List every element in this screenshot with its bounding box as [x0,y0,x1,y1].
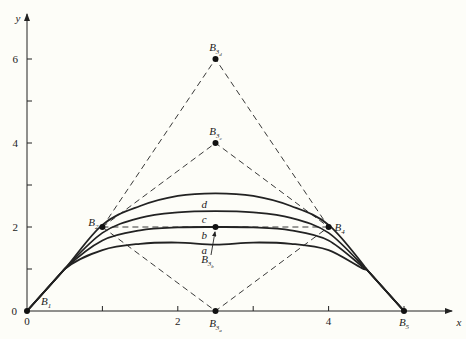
point-B1 [24,308,30,314]
polygon-a [102,227,328,311]
point-B3a [213,308,219,314]
b3b-pointer-arrow [211,232,215,255]
label-B3c: B3c [209,125,222,141]
bspline-diagram: 2424600xy B1B2B3aB3bB3cB3dB4B5abcd [0,0,466,339]
label-B1: B1 [41,295,51,310]
plot-area: 2424600xy B1B2B3aB3bB3cB3dB4B5abcd [0,0,466,339]
point-B3d [213,56,219,62]
curve-label-b: b [201,229,207,241]
point-B5 [401,308,407,314]
curve-label-d: d [201,198,207,210]
polygon-c [102,143,328,227]
label-B2: B2 [88,216,99,231]
y-tick-label: 2 [13,221,19,233]
origin-x-label: 0 [24,315,30,327]
control-points [24,56,407,314]
curve-label-c: c [202,213,207,225]
control-polygons [102,59,328,311]
axes: 2424600xy [12,12,462,328]
x-tick-label: 2 [175,315,181,327]
x-axis-label: x [456,316,462,328]
labels: B1B2B3aB3bB3cB3dB4B5abcd [41,41,410,333]
origin-y-label: 0 [12,305,18,317]
curve-b [27,227,404,311]
label-B3d: B3d [209,41,222,57]
point-B3b [213,224,219,230]
y-tick-label: 6 [13,53,19,65]
curve-label-a: a [201,244,207,256]
label-B3a: B3a [209,317,222,333]
curves [27,193,404,311]
label-B5: B5 [399,316,410,331]
y-axis-label: y [15,12,21,24]
y-tick-label: 4 [13,137,19,149]
point-B3c [213,140,219,146]
label-B4: B4 [335,221,346,236]
point-B2 [99,224,105,230]
x-tick-label: 4 [326,315,332,327]
point-B4 [326,224,332,230]
